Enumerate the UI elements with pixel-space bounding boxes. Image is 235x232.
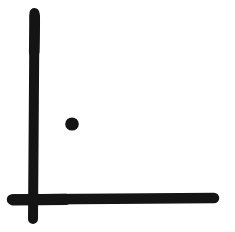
y-axis-stroke-highlight: [34, 16, 35, 52]
drawing-canvas: [0, 0, 235, 232]
x-axis-stroke-left-weight: [14, 199, 67, 200]
ink-dot: [65, 117, 79, 130]
axis-intersection-blob: [27, 193, 40, 205]
data-point-group: [65, 117, 79, 130]
ink-glyph-figure: [0, 0, 235, 232]
